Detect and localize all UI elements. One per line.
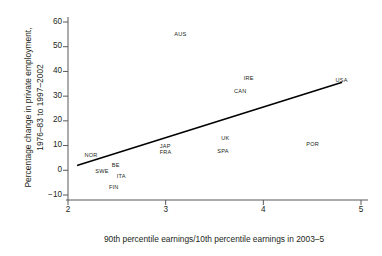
data-point-label-spa: SPA <box>217 148 229 154</box>
data-point-label-ita: ITA <box>117 173 126 179</box>
x-axis-tick-marks <box>68 200 361 205</box>
y-axis-tick-marks <box>63 22 68 195</box>
data-point-label-uk: UK <box>221 135 229 141</box>
data-point-label-ire: IRE <box>244 75 254 81</box>
plot-area <box>0 0 382 256</box>
axis-lines <box>66 17 368 200</box>
data-point-label-fin: FIN <box>109 184 119 190</box>
data-point-label-aus: AUS <box>174 31 186 37</box>
data-point-label-por: POR <box>306 141 319 147</box>
data-point-label-jap: JAP <box>160 143 171 149</box>
data-point-label-be: BE <box>112 162 120 168</box>
chart-figure: Percentage change in private employment,… <box>0 0 382 256</box>
data-point-label-swe: SWE <box>95 168 109 174</box>
data-point-label-nor: NOR <box>84 152 97 158</box>
regression-trend-line <box>78 83 342 166</box>
data-point-label-usa: USA <box>335 77 347 83</box>
data-point-label-can: CAN <box>234 88 247 94</box>
data-point-label-fra: FRA <box>160 149 172 155</box>
